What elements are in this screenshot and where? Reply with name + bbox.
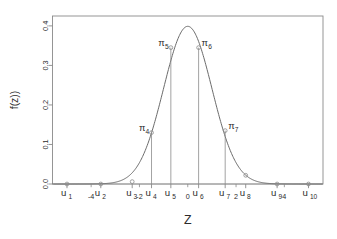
x-axis-u-label: u1 [61, 187, 72, 200]
y-axis-tick-label: 0.4 [41, 21, 50, 31]
x-axis-u-label: u5 [165, 187, 176, 200]
data-point-marker [130, 180, 134, 184]
x-axis-title: Z [184, 213, 192, 227]
u-label-subscript: 4 [153, 193, 157, 200]
u-label-base: u [61, 187, 66, 198]
x-axis-u-label: u9 [271, 187, 282, 200]
plot-frame [53, 16, 324, 184]
pi-segment-label: π4 [139, 122, 150, 135]
u-label-subscript: 5 [172, 193, 176, 200]
u-label-base: u [95, 187, 100, 198]
x-axis-numeric-label: -4 [88, 192, 94, 201]
u-label-base: u [240, 187, 245, 198]
chart-figure: 0.00.10.20.30.4f(z))-4-2024u1u2u3u4u5u6u… [0, 0, 337, 239]
x-axis-u-label: u6 [193, 187, 204, 200]
u-label-subscript: 9 [279, 193, 283, 200]
y-axis-title: f(z)) [9, 91, 20, 109]
u-label-subscript: 8 [247, 193, 251, 200]
x-axis-u-label: u7 [219, 187, 230, 200]
u-label-subscript: 7 [227, 193, 231, 200]
x-axis-u-label: u4 [145, 187, 156, 200]
pi-label-subscript: 5 [165, 43, 169, 50]
y-axis-tick-label: 0.2 [41, 100, 50, 110]
u-label-base: u [165, 187, 170, 198]
pi-label-subscript: 4 [146, 128, 150, 135]
pi-label-subscript: 6 [208, 43, 212, 50]
u-label-base: u [302, 187, 307, 198]
normal-density-plot: 0.00.10.20.30.4f(z))-4-2024u1u2u3u4u5u6u… [0, 0, 337, 239]
u-label-base: u [145, 187, 150, 198]
u-label-subscript: 10 [310, 193, 318, 200]
u-label-subscript: 6 [200, 193, 204, 200]
x-axis-u-label: u10 [302, 187, 317, 200]
x-axis-numeric-label: 4 [282, 192, 286, 201]
u-label-base: u [126, 187, 131, 198]
u-label-base: u [271, 187, 276, 198]
x-axis-u-label: u3 [126, 187, 137, 200]
u-label-subscript: 2 [102, 193, 106, 200]
u-label-base: u [193, 187, 198, 198]
y-axis-tick-label: 0.0 [41, 179, 50, 189]
pi-segment-label: π7 [228, 120, 239, 133]
x-axis-numeric-label: 2 [234, 192, 238, 201]
pi-segment-label: π5 [158, 37, 169, 50]
y-axis-tick-label: 0.1 [41, 139, 50, 149]
x-axis-numeric-label: 0 [186, 192, 190, 201]
density-curve [53, 26, 324, 184]
x-axis-u-label: u2 [95, 187, 106, 200]
pi-label-subscript: 7 [235, 126, 239, 133]
x-axis-u-label: u8 [240, 187, 251, 200]
y-axis-tick-label: 0.3 [41, 60, 50, 70]
pi-segment-label: π6 [202, 37, 213, 50]
u-label-subscript: 3 [134, 193, 138, 200]
u-label-subscript: 1 [68, 193, 72, 200]
u-label-base: u [219, 187, 224, 198]
